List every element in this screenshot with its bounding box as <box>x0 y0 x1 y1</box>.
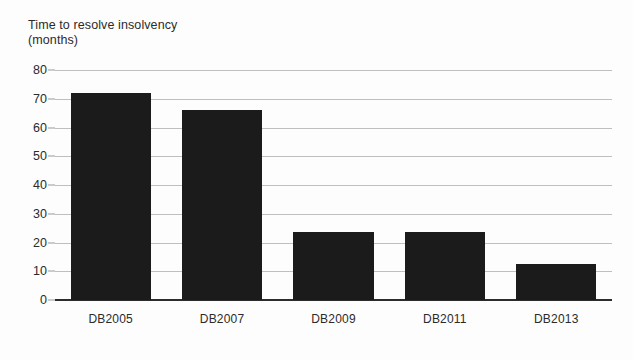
y-tick-mark <box>48 271 55 272</box>
x-tick-label-db2005: DB2005 <box>88 312 133 326</box>
y-tick-label: 20 <box>33 236 47 250</box>
bar-db2011 <box>405 232 485 300</box>
bar-chart-figure: Time to resolve insolvency (months) 0102… <box>0 0 633 360</box>
gridline <box>55 70 612 71</box>
x-tick-label-db2013: DB2013 <box>534 312 579 326</box>
y-tick-mark <box>48 70 55 71</box>
y-tick-label: 70 <box>33 92 47 106</box>
y-tick-label: 50 <box>33 149 47 163</box>
bar-db2007 <box>182 110 262 300</box>
y-tick-label: 60 <box>33 121 47 135</box>
bar-db2005 <box>71 93 151 300</box>
y-tick-mark <box>48 98 55 99</box>
y-tick-mark <box>48 242 55 243</box>
bar-db2009 <box>293 232 373 300</box>
x-tick-label-db2007: DB2007 <box>200 312 245 326</box>
y-tick-mark <box>48 127 55 128</box>
x-tick-label-db2011: DB2011 <box>423 312 467 326</box>
chart-title-line-2: (months) <box>28 33 177 48</box>
y-tick-label: 40 <box>33 178 47 192</box>
y-tick-label: 30 <box>33 207 47 221</box>
y-axis: 01020304050607080 <box>0 70 47 300</box>
y-tick-label: 0 <box>40 293 47 307</box>
y-tick-mark <box>48 156 55 157</box>
chart-title: Time to resolve insolvency (months) <box>28 18 177 48</box>
y-tick-label: 80 <box>33 63 47 77</box>
bar-db2013 <box>516 264 596 300</box>
x-tick-label-db2009: DB2009 <box>311 312 356 326</box>
y-tick-mark <box>48 213 55 214</box>
chart-title-line-1: Time to resolve insolvency <box>28 18 177 33</box>
y-tick-label: 10 <box>33 264 47 278</box>
x-axis: DB2005DB2007DB2009DB2011DB2013 <box>55 306 612 334</box>
y-tick-mark <box>48 300 55 301</box>
y-tick-mark <box>48 185 55 186</box>
